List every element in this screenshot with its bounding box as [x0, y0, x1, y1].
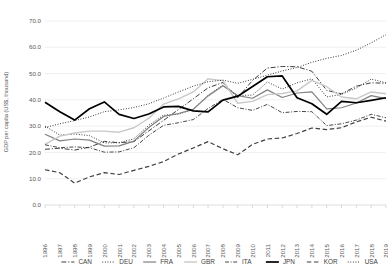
x-axis-tick-label: 2015 — [323, 243, 330, 257]
series-line-usa — [45, 35, 386, 128]
y-axis-tick-label: 40.0 — [29, 96, 42, 103]
x-axis-tick-label: 2013 — [293, 243, 300, 257]
legend-label-gbr[interactable]: GBR — [201, 258, 215, 265]
series-line-gbr — [45, 79, 386, 144]
x-axis-tick-label: 2018 — [368, 243, 375, 257]
legend-label-usa[interactable]: USA — [365, 258, 379, 265]
y-axis-tick-label: 60.0 — [29, 43, 42, 50]
x-axis-tick-label: 2010 — [249, 243, 256, 257]
y-axis-title: GDP per capita (US$, thousand) — [3, 72, 9, 153]
x-axis-tick-label: 2000 — [101, 243, 108, 257]
legend-label-jpn[interactable]: JPN — [283, 258, 295, 265]
x-axis-tick-label: 2012 — [279, 243, 286, 257]
x-axis-tick-label: 1998 — [71, 243, 78, 257]
y-axis-tick-label: 70.0 — [29, 17, 42, 24]
x-axis-tick-label: 2004 — [160, 243, 167, 257]
x-axis-tick-label: 1997 — [56, 243, 63, 257]
x-axis-tick-label: 1996 — [41, 243, 48, 257]
x-axis-tick-labels: 1996199719981999200020012002200320042005… — [41, 243, 388, 257]
legend-label-ita[interactable]: ITA — [242, 258, 252, 265]
x-axis-tick-label: 2008 — [219, 243, 226, 257]
series-line-fra — [45, 86, 386, 146]
x-axis-tick-label: 2006 — [190, 243, 197, 257]
y-axis-tick-label: 30.0 — [29, 122, 42, 129]
gridlines-group — [45, 21, 386, 179]
y-axis-tick-label: 0.0 — [32, 201, 41, 208]
legend-label-deu[interactable]: DEU — [119, 258, 133, 265]
axis-lines-group — [45, 205, 386, 208]
legend-label-can[interactable]: CAN — [78, 258, 92, 265]
chart-container: 0.010.020.030.040.050.060.070.0 19961997… — [0, 0, 388, 269]
x-axis-tick-label: 2007 — [204, 243, 211, 257]
y-axis-tick-labels: 0.010.020.030.040.050.060.070.0 — [29, 17, 42, 208]
x-axis-tick-label: 2019 — [382, 243, 388, 257]
legend-label-kor[interactable]: KOR — [324, 258, 338, 265]
y-axis-title-group: GDP per capita (US$, thousand) — [3, 72, 9, 153]
x-axis-tick-label: 2011 — [264, 243, 271, 257]
x-axis-tick-label: 2002 — [130, 243, 137, 257]
series-line-deu — [45, 79, 386, 143]
x-axis-tick-label: 2014 — [308, 243, 315, 257]
x-axis-tick-label: 2001 — [116, 243, 123, 257]
series-line-kor — [45, 117, 386, 183]
y-axis-tick-label: 10.0 — [29, 175, 42, 182]
y-axis-tick-label: 20.0 — [29, 149, 42, 156]
series-line-jpn — [45, 76, 386, 120]
legend-label-fra[interactable]: FRA — [160, 258, 174, 265]
x-axis-tick-label: 2017 — [353, 243, 360, 257]
data-series-group — [45, 35, 386, 184]
line-chart: 0.010.020.030.040.050.060.070.0 19961997… — [0, 0, 388, 269]
y-axis-tick-label: 50.0 — [29, 70, 42, 77]
x-axis-tick-label: 2016 — [338, 243, 345, 257]
x-axis-tick-label: 2005 — [175, 243, 182, 257]
x-axis-tick-label: 2009 — [234, 243, 241, 257]
x-axis-tick-label: 1999 — [86, 243, 93, 257]
x-axis-tick-label: 2003 — [145, 243, 152, 257]
